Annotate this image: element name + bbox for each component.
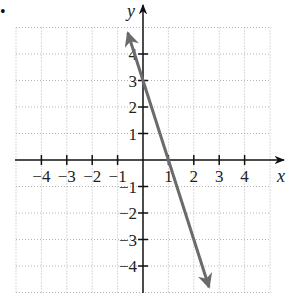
x-tick-label: −3 bbox=[58, 167, 76, 186]
y-tick-label: 3 bbox=[129, 72, 138, 91]
y-tick-label: −2 bbox=[119, 204, 137, 223]
y-tick-label: −4 bbox=[119, 257, 138, 276]
bullet-marker: • bbox=[0, 3, 6, 20]
x-tick-label: −4 bbox=[32, 167, 51, 186]
y-tick-label: −1 bbox=[119, 178, 137, 197]
y-tick-label: 2 bbox=[129, 98, 138, 117]
y-tick-label: 1 bbox=[129, 125, 138, 144]
y-axis-label: y bbox=[125, 1, 135, 21]
x-tick-label: 3 bbox=[215, 167, 224, 186]
x-tick-label: 4 bbox=[240, 167, 249, 186]
axes bbox=[15, 5, 284, 293]
x-axis-label: x bbox=[276, 166, 285, 186]
y-tick-label: −3 bbox=[119, 231, 137, 250]
x-tick-label: −2 bbox=[83, 167, 101, 186]
x-tick-label: 2 bbox=[190, 167, 199, 186]
coordinate-plane: • −4−3−2−11234−4−3−2−11234 x y bbox=[0, 0, 289, 295]
